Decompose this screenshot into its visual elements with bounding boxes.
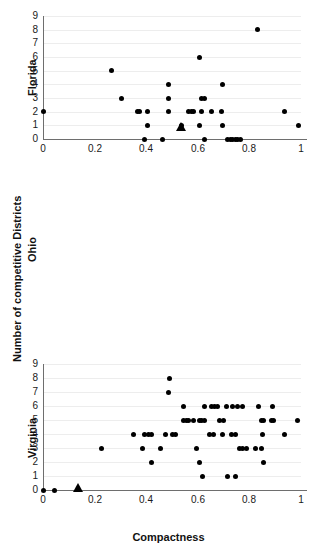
data-point — [142, 137, 147, 142]
data-point — [160, 137, 165, 142]
x-tick-label: 0.6 — [183, 144, 213, 154]
gridline — [43, 84, 301, 85]
y-tick-label: 6 — [21, 52, 38, 62]
data-point — [202, 96, 207, 101]
y-tick-label: 3 — [21, 93, 38, 103]
x-tick-label: 0.4 — [131, 144, 161, 154]
x-tick-label: 1 — [286, 144, 313, 154]
panel-virginia: Virginia 0123400.20.40.60.81 Compactness — [0, 354, 313, 558]
data-point — [197, 55, 202, 60]
data-point — [137, 109, 142, 114]
x-tick-label: 0.8 — [234, 144, 264, 154]
data-point — [119, 96, 124, 101]
gridline — [43, 43, 301, 44]
data-point — [197, 123, 202, 128]
y-tick-label: 8 — [21, 25, 38, 35]
data-point — [41, 109, 46, 114]
gridline — [43, 30, 301, 31]
panel-florida: Florida 012345678900.20.40.60.81 — [0, 0, 313, 178]
x-tick-label: 0.2 — [80, 144, 110, 154]
panel-ohio: Ohio 012345678900.20.40.60.81 — [0, 178, 313, 354]
data-point — [109, 68, 114, 73]
data-point — [238, 137, 243, 142]
data-marker-triangle — [176, 122, 186, 131]
data-point — [166, 82, 171, 87]
y-tick-label: 9 — [21, 11, 38, 21]
data-point — [145, 109, 150, 114]
data-point — [282, 109, 287, 114]
data-point — [145, 123, 150, 128]
gridline — [43, 16, 301, 17]
data-point — [199, 109, 204, 114]
y-axis-line — [43, 16, 44, 139]
gridline — [43, 98, 301, 99]
y-tick-label: 0 — [21, 134, 38, 144]
data-point — [220, 123, 225, 128]
data-point — [296, 123, 301, 128]
y-tick-label: 5 — [21, 66, 38, 76]
data-point — [166, 109, 171, 114]
y-tick-label: 4 — [21, 79, 38, 89]
y-axis-title-virginia: Virginia — [26, 417, 38, 457]
y-tick-label: 2 — [21, 107, 38, 117]
gridline — [43, 112, 301, 113]
x-axis-line — [43, 139, 307, 140]
data-point — [209, 109, 214, 114]
y-axis-title-ohio: Ohio — [26, 236, 38, 261]
y-tick-label: 7 — [21, 38, 38, 48]
data-point — [202, 137, 207, 142]
gridline — [43, 57, 301, 58]
data-point — [255, 27, 260, 32]
figure-scatter-panels: Number of competitive Districts Florida … — [0, 0, 313, 558]
gridline — [43, 125, 301, 126]
x-axis-title: Compactness — [12, 531, 313, 543]
data-point — [191, 109, 196, 114]
plot-area-florida: 012345678900.20.40.60.81 — [43, 16, 301, 139]
data-point — [219, 109, 224, 114]
gridline — [43, 71, 301, 72]
y-tick-label: 1 — [21, 120, 38, 130]
x-tick-label: 0 — [28, 144, 58, 154]
data-point — [166, 96, 171, 101]
data-point — [220, 82, 225, 87]
